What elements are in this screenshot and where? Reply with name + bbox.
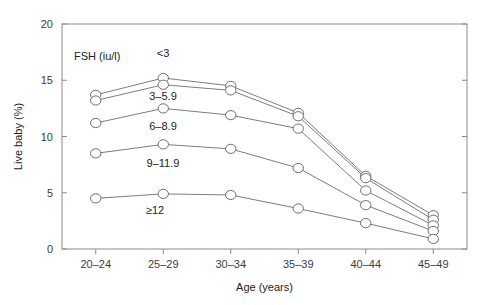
y-tick-label: 0 [47,243,53,255]
x-tick-label: 35–39 [283,258,314,270]
y-tick-label: 10 [41,131,53,143]
data-point-marker [158,140,168,149]
data-point-marker [293,112,303,121]
x-tick-label: 45–49 [418,258,449,270]
data-point-marker [91,118,101,127]
data-point-marker [226,86,236,95]
data-point-marker [226,144,236,153]
x-tick-label: 40–44 [350,258,381,270]
data-point-marker [158,189,168,198]
series-label: <3 [157,47,170,59]
data-point-marker [361,219,371,228]
series-label: 3–5.9 [149,90,177,102]
x-tick-label: 20–24 [80,258,111,270]
data-point-marker [428,234,438,243]
data-point-marker [158,104,168,113]
data-point-marker [293,163,303,172]
data-point-marker [158,80,168,89]
y-tick-label: 20 [41,18,53,30]
y-tick-label: 15 [41,74,53,86]
series-label: ≥12 [146,204,164,216]
legend-title: FSH (iu/l) [74,50,120,62]
x-tick-label: 25–29 [148,258,179,270]
x-axis-title: Age (years) [236,281,293,293]
x-tick-label: 30–34 [215,258,246,270]
series-line [96,194,434,239]
data-point-marker [293,124,303,133]
data-point-marker [226,190,236,199]
chart-figure: 0510152020–2425–2930–3435–3940–4445–49FS… [0,0,490,305]
y-axis-title: Live baby (%) [12,103,24,170]
data-point-marker [91,194,101,203]
data-point-marker [293,204,303,213]
series-label: 9–11.9 [147,157,180,169]
data-point-marker [226,111,236,120]
data-point-marker [361,201,371,210]
data-point-marker [91,96,101,105]
data-point-marker [91,149,101,158]
data-point-marker [361,174,371,183]
series-label: 6–8.9 [149,120,177,132]
line-chart: 0510152020–2425–2930–3435–3940–4445–49FS… [0,0,490,305]
data-point-marker [361,186,371,195]
plot-frame [62,24,467,249]
y-tick-label: 5 [47,187,53,199]
